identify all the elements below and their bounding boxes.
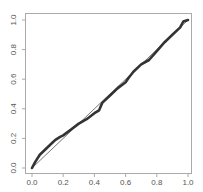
y-tick-label: 0.6 [9, 73, 18, 85]
x-tick-label: 1.0 [182, 178, 194, 187]
x-tick-label: 0.6 [120, 178, 132, 187]
x-axis: 0.00.20.40.60.81.0 [26, 174, 194, 188]
x-tick-label: 0.0 [26, 178, 38, 187]
y-axis: 0.00.20.40.60.81.0 [9, 14, 26, 174]
x-tick-label: 0.8 [151, 178, 163, 187]
y-tick-label: 1.0 [9, 14, 18, 26]
y-tick-label: 0.2 [9, 132, 18, 144]
y-tick-label: 0.0 [9, 162, 18, 174]
y-tick-label: 0.8 [9, 43, 18, 55]
pp-plot: 0.00.20.40.60.81.0 0.00.20.40.60.81.0 [0, 0, 203, 192]
x-tick-label: 0.4 [89, 178, 101, 187]
x-tick-label: 0.2 [58, 178, 70, 187]
y-tick-label: 0.4 [9, 103, 18, 115]
plot-frame [26, 14, 192, 174]
